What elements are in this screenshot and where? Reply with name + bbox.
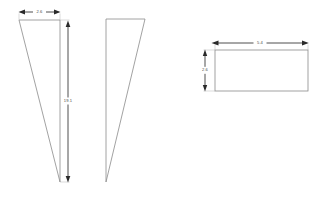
dimension-left-width: 2.6 — [19, 8, 61, 20]
dimension-label-left-height: 19.1 — [64, 98, 73, 103]
dimension-rect-width: 5.4 — [212, 39, 309, 50]
shape-middle-triangle — [106, 19, 145, 182]
arrow-head-left-icon — [19, 10, 26, 15]
dimension-label-left-width: 2.6 — [37, 9, 44, 14]
dimension-label-rect-width: 5.4 — [257, 40, 264, 45]
arrow-head-top-icon — [203, 50, 207, 57]
dimension-left-height: 19.1 — [60, 20, 74, 183]
arrow-head-bottom-icon — [203, 85, 207, 92]
shape-left-triangle — [19, 20, 60, 182]
arrow-head-right-icon — [54, 10, 61, 15]
dimension-label-rect-height: 2.6 — [202, 67, 209, 72]
drawing-sheet: 2.6 19.1 5.4 — [0, 0, 321, 198]
shape-right-rectangle — [215, 50, 308, 91]
arrow-head-bottom-icon — [66, 176, 71, 183]
dimension-rect-height: 2.6 — [200, 50, 216, 92]
arrow-head-top-icon — [66, 21, 71, 28]
technical-drawing-canvas: 2.6 19.1 5.4 — [0, 0, 321, 198]
